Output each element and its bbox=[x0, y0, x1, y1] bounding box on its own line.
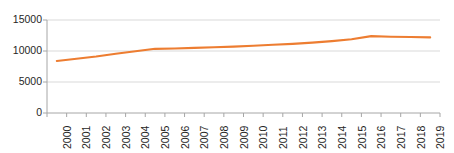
x-tick-label-2014: 2014 bbox=[337, 126, 348, 149]
line-chart: 050001000015000 200020012002200320042005… bbox=[0, 0, 454, 153]
x-tick-label-2011: 2011 bbox=[278, 126, 289, 149]
x-tick-label-2017: 2017 bbox=[396, 126, 407, 149]
x-tick-label-2010: 2010 bbox=[258, 126, 269, 149]
x-tick-label-2007: 2007 bbox=[199, 126, 210, 149]
x-tick-label-2006: 2006 bbox=[180, 126, 191, 149]
gridlines bbox=[47, 20, 440, 82]
x-tick-label-2000: 2000 bbox=[62, 126, 73, 149]
x-tick-label-2018: 2018 bbox=[416, 126, 427, 149]
x-tick-label-2004: 2004 bbox=[140, 126, 151, 149]
x-tick-label-2009: 2009 bbox=[239, 126, 250, 149]
y-tick-label-5000: 5000 bbox=[0, 76, 42, 87]
x-tick-label-2013: 2013 bbox=[317, 126, 328, 149]
y-tick-label-10000: 10000 bbox=[0, 45, 42, 56]
data-series-group bbox=[57, 36, 430, 61]
y-tick-label-15000: 15000 bbox=[0, 14, 42, 25]
x-tick-label-2016: 2016 bbox=[376, 126, 387, 149]
x-tick-label-2012: 2012 bbox=[298, 126, 309, 149]
series-line-series-1 bbox=[57, 36, 430, 61]
x-tick-label-2008: 2008 bbox=[219, 126, 230, 149]
x-tick-label-2005: 2005 bbox=[160, 126, 171, 149]
x-tick-label-2002: 2002 bbox=[101, 126, 112, 149]
x-tick-label-2003: 2003 bbox=[121, 126, 132, 149]
x-axis bbox=[47, 113, 440, 117]
x-tick-label-2019: 2019 bbox=[435, 126, 446, 149]
y-axis bbox=[43, 20, 47, 113]
x-tick-label-2001: 2001 bbox=[81, 126, 92, 149]
x-tick-label-2015: 2015 bbox=[357, 126, 368, 149]
y-tick-label-0: 0 bbox=[0, 107, 42, 118]
